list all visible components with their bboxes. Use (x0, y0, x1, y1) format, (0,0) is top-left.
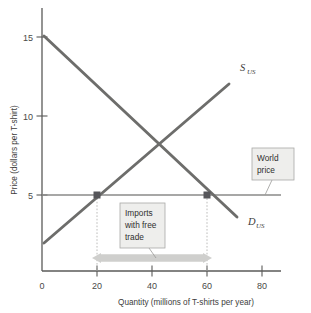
demand-curve-label-subscript: US (256, 222, 265, 230)
imports-callout-line2: with free (124, 220, 157, 230)
y-tick-labels: 15 10 5 (23, 33, 33, 201)
marker-domestic-quantity-demanded (204, 192, 211, 199)
imports-callout-line3: trade (125, 232, 144, 242)
x-tick-label-40: 40 (147, 281, 157, 291)
imports-callout: Imports with free trade (120, 203, 165, 258)
world-price-callout-line2: price (257, 165, 275, 175)
supply-curve-label-letter: S (240, 62, 246, 73)
x-tick-labels: 0 20 40 60 80 (39, 281, 267, 291)
supply-curve-label: S US (240, 62, 256, 76)
x-tick-label-60: 60 (202, 281, 212, 291)
y-tick-label-5: 5 (28, 191, 33, 201)
y-tick-label-10: 10 (23, 112, 33, 122)
demand-curve-d-us (44, 36, 237, 217)
y-tick-label-15: 15 (23, 33, 33, 43)
demand-curve-label: D US (247, 216, 265, 230)
demand-curve-label-letter: D (247, 216, 256, 227)
world-price-leader-line (265, 180, 272, 195)
world-price-callout-line1: World (257, 153, 279, 163)
imports-callout-line1: Imports (125, 208, 153, 218)
supply-demand-chart: 15 10 5 0 20 40 60 80 Price (dollars per… (0, 0, 311, 313)
marker-domestic-quantity-supplied (94, 192, 101, 199)
world-price-callout: World price (252, 148, 294, 195)
x-tick-label-20: 20 (92, 281, 102, 291)
x-tick-label-80: 80 (257, 281, 267, 291)
x-tick-label-0: 0 (39, 281, 44, 291)
x-axis-title: Quantity (millions of T-shirts per year) (118, 298, 254, 307)
supply-curve-label-subscript: US (247, 68, 256, 76)
chart-figure: 15 10 5 0 20 40 60 80 Price (dollars per… (0, 0, 311, 313)
y-axis-title: Price (dollars per T-shirt) (10, 105, 19, 195)
